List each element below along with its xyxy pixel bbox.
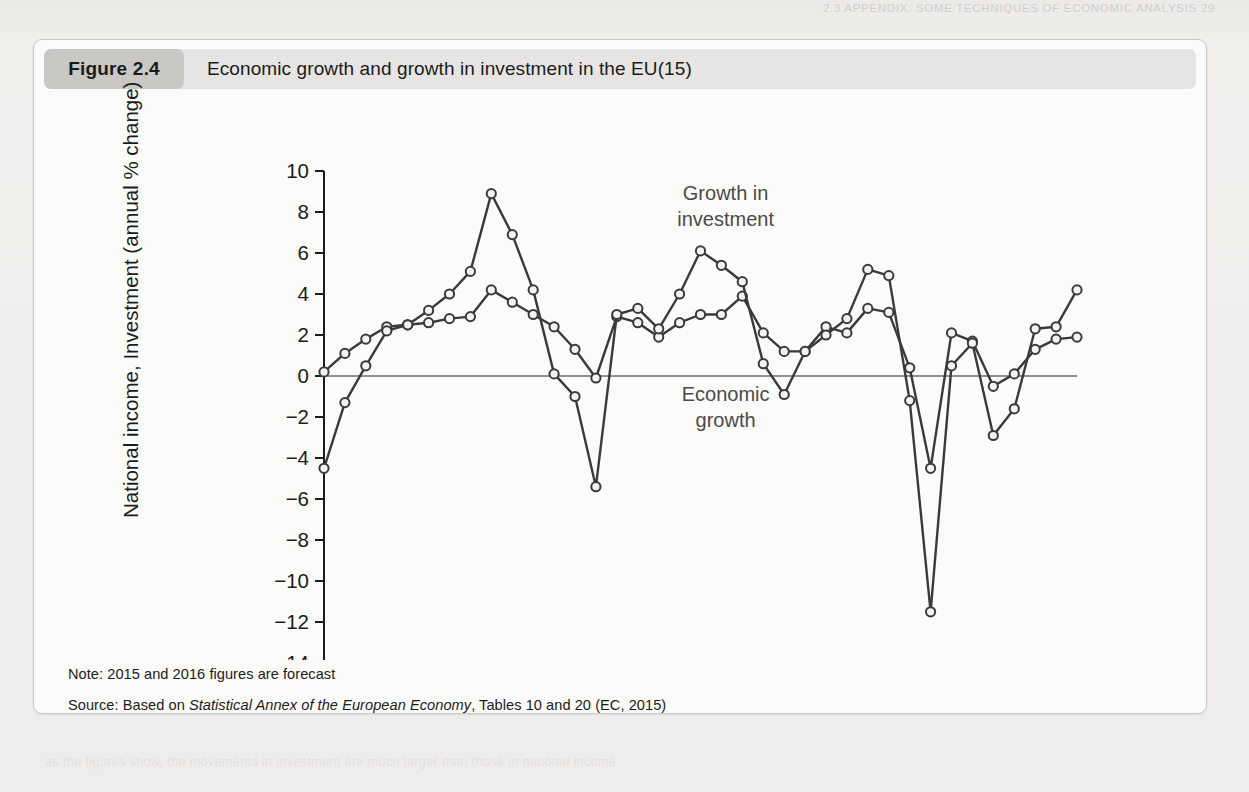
data-point-marker [947,328,956,337]
data-point-marker [905,396,914,405]
data-point-marker [675,289,684,298]
data-point-marker [550,369,559,378]
data-point-marker [717,310,726,319]
data-point-marker [508,298,517,307]
data-point-marker [319,464,328,473]
y-tick-label: 0 [298,364,309,387]
data-point-marker [696,246,705,255]
source-prefix: Source: Based on [68,697,189,713]
data-point-marker [968,339,977,348]
data-point-marker [780,347,789,356]
data-point-marker [424,306,433,315]
data-point-marker [989,382,998,391]
y-tick-label: 10 [286,159,309,182]
data-point-marker [633,318,642,327]
chart-plot-area: National income, Investment (annual % ch… [34,95,1208,660]
y-tick-label: 6 [298,241,309,264]
data-point-marker [403,320,412,329]
data-point-marker [319,367,328,376]
data-point-marker [550,322,559,331]
data-point-marker [842,328,851,337]
data-point-marker [340,398,349,407]
data-point-marker [780,390,789,399]
chart-annotation-1: investment [677,208,774,230]
source-title: Statistical Annex of the European Econom… [189,697,471,713]
data-point-marker [1072,285,1081,294]
data-point-marker [361,335,370,344]
data-point-marker [738,277,747,286]
data-point-marker [445,289,454,298]
y-tick-label: 2 [298,323,309,346]
data-point-marker [508,230,517,239]
data-point-marker [487,285,496,294]
y-tick-label: −10 [274,569,309,592]
data-point-marker [570,345,579,354]
data-point-marker [884,271,893,280]
data-point-marker [863,304,872,313]
data-point-marker [863,265,872,274]
data-point-marker [1031,345,1040,354]
figure-box: Figure 2.4 Economic growth and growth in… [33,39,1207,714]
data-point-marker [759,328,768,337]
y-tick-label: −6 [286,487,309,510]
data-point-marker [1010,369,1019,378]
data-point-marker [529,310,538,319]
y-tick-label: −12 [274,610,309,633]
chart-annotation-2: growth [696,409,756,431]
data-point-marker [821,330,830,339]
data-point-marker [612,310,621,319]
chart-annotation-2: Economic [682,383,770,405]
data-point-marker [1031,324,1040,333]
data-point-marker [591,373,600,382]
figure-header: Figure 2.4 Economic growth and growth in… [44,49,1196,89]
y-tick-label: −4 [286,446,309,469]
data-point-marker [633,304,642,313]
data-point-marker [361,361,370,370]
data-point-marker [717,261,726,270]
y-tick-label: 8 [298,200,309,223]
data-point-marker [382,326,391,335]
running-head: 2.3 APPENDIX: SOME TECHNIQUES OF ECONOMI… [823,2,1215,14]
data-point-marker [487,189,496,198]
data-point-marker [1052,335,1061,344]
data-point-marker [424,318,433,327]
data-point-marker [759,359,768,368]
line-chart: 1086420−2−4−6−8−10−12−141980198519901995… [34,95,1208,660]
source-suffix: , Tables 10 and 20 (EC, 2015) [471,697,666,713]
data-point-marker [696,310,705,319]
data-point-marker [1010,404,1019,413]
data-point-marker [675,318,684,327]
data-point-marker [989,431,998,440]
data-point-marker [801,347,810,356]
data-point-marker [591,482,600,491]
data-point-marker [466,312,475,321]
data-point-marker [947,361,956,370]
chart-annotation-1: Growth in [683,182,769,204]
figure-title: Economic growth and growth in investment… [207,49,692,89]
data-point-marker [1072,333,1081,342]
y-tick-label: −2 [286,405,309,428]
data-point-marker [884,308,893,317]
data-point-marker [1052,322,1061,331]
data-point-marker [466,267,475,276]
y-tick-label: −14 [274,651,309,660]
data-point-marker [445,314,454,323]
figure-source: Source: Based on Statistical Annex of th… [68,697,666,713]
figure-note: Note: 2015 and 2016 figures are forecast [68,666,335,682]
data-point-marker [654,324,663,333]
data-point-marker [340,349,349,358]
y-tick-label: −8 [286,528,309,551]
data-point-marker [926,607,935,616]
ghost-text: as the figures show, the movements in in… [45,755,616,769]
data-point-marker [529,285,538,294]
data-point-marker [926,464,935,473]
y-tick-label: 4 [298,282,309,305]
data-point-marker [842,314,851,323]
data-point-marker [905,363,914,372]
figure-number-badge: Figure 2.4 [44,49,184,89]
data-point-marker [570,392,579,401]
